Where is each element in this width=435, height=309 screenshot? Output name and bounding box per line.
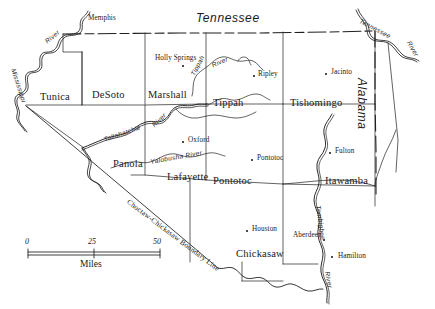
mississippi-river-east-bank — [15, 11, 88, 131]
west-border-upper — [26, 106, 84, 148]
scale-tick-25: 25 — [88, 238, 96, 246]
city-label-jacinto: Jacinto — [331, 69, 352, 76]
county-label-desoto: DeSoto — [92, 90, 125, 101]
city-label-oxford: Oxford — [188, 137, 209, 144]
tallahatchie-branch-south — [176, 109, 256, 118]
county-label-tunica: Tunica — [40, 92, 70, 103]
county-label-lafayette: Lafayette — [167, 172, 208, 183]
city-label-houston: Houston — [252, 226, 277, 233]
city-label-fulton: Fulton — [335, 148, 354, 155]
county-label-tippah: Tippah — [213, 98, 244, 109]
city-label-hamilton: Hamilton — [338, 253, 366, 260]
east-border-lower — [375, 130, 396, 186]
county-label-chickasaw: Chickasaw — [236, 249, 284, 260]
historical-county-map: Tennessee Alabama Tunica DeSoto Marshall… — [0, 0, 435, 309]
scale-tick-50: 50 — [153, 238, 161, 246]
county-label-panola: Panola — [113, 159, 143, 170]
southern-boundary — [218, 267, 323, 291]
city-label-ripley: Ripley — [258, 71, 278, 78]
city-label-memphis: Memphis — [88, 15, 116, 22]
state-label-alabama: Alabama — [356, 78, 368, 130]
scale-bar-graphic — [28, 249, 160, 258]
city-label-pontotoc-town: Pontotoc — [257, 155, 283, 162]
county-label-tishomingo: Tishomingo — [290, 98, 342, 109]
northeast-corner-line — [388, 43, 398, 172]
county-label-marshall: Marshall — [148, 90, 187, 101]
scale-tick-0: 0 — [25, 238, 29, 246]
county-label-itawamba: Itawamba — [325, 176, 368, 187]
county-label-pontotoc: Pontotoc — [213, 176, 252, 187]
scale-unit-label: Miles — [80, 260, 102, 270]
city-label-holly-springs: Holly Springs — [155, 55, 191, 63]
state-line-tennessee — [63, 31, 372, 34]
state-label-tennessee: Tennessee — [196, 12, 260, 24]
